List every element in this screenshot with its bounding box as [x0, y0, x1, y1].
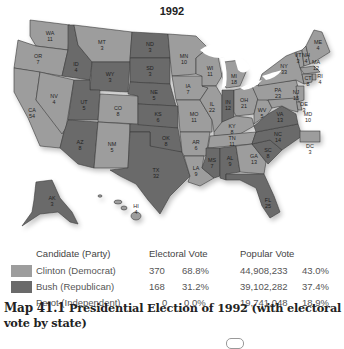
header-candidate: Candidate (Party) — [36, 248, 110, 259]
state-label-RI: RI4 — [317, 73, 322, 85]
candidate-name: Clinton (Democrat) — [36, 265, 116, 276]
state-label-WI: WI11 — [207, 65, 214, 77]
popular-vote: 39,102,282 — [240, 281, 288, 292]
legend-row-clinton: Clinton (Democrat) 370 68.8% 44,908,233 … — [0, 265, 344, 279]
state-label-IN: IN12 — [225, 99, 231, 111]
state-label-CT: CT8 — [304, 75, 312, 87]
electoral-vote: 168 — [149, 281, 165, 292]
state-label-MI: MI18 — [231, 73, 237, 85]
legend-row-bush: Bush (Republican) 168 31.2% 39,102,282 3… — [0, 281, 344, 295]
state-DC — [300, 131, 320, 142]
header-popular-vote: Popular Vote — [240, 248, 294, 259]
popular-vote-pct: 43.0% — [302, 265, 329, 276]
state-label-FL: FL25 — [265, 197, 271, 209]
popular-vote-pct: 37.4% — [302, 281, 329, 292]
swatch-democrat — [11, 265, 32, 277]
figure-caption: Map 41.1 Presidential Election of 1992 (… — [4, 301, 344, 331]
state-label-TX: TX32 — [153, 167, 160, 179]
state-label-OH: OH21 — [240, 97, 248, 109]
caption-number: Map 41.1 — [4, 301, 65, 315]
page-marker — [226, 338, 244, 349]
state-label-VA: VA13 — [277, 111, 284, 123]
swatch-republican — [11, 281, 32, 293]
state-label-PA: PA23 — [275, 87, 282, 99]
state-label-NC: NC14 — [274, 131, 282, 143]
state-label-NY: NY33 — [280, 63, 288, 75]
state-label-CA: CA54 — [28, 107, 36, 119]
state-label-NJ: NJ15 — [293, 89, 300, 101]
electoral-vote-pct: 68.8% — [182, 265, 209, 276]
state-RI — [312, 74, 316, 80]
popular-vote: 44,908,233 — [240, 265, 288, 276]
electoral-vote-pct: 31.2% — [182, 281, 209, 292]
state-label-DC: DC3 — [306, 143, 314, 155]
header-electoral-vote: Electoral Vote — [149, 248, 208, 259]
state-label-MA: MA12 — [312, 59, 320, 71]
state-FL — [226, 174, 280, 218]
state-label-MD: MD10 — [304, 111, 312, 123]
state-label-TN: TN11 — [228, 135, 235, 147]
us-election-map: WA11OR7CA54NV4ID4MT3WY3UT5CO8AZ8NM5ND3SD… — [0, 0, 344, 240]
state-label-IL: IL22 — [209, 101, 215, 113]
candidate-name: Bush (Republican) — [36, 281, 114, 292]
electoral-vote: 370 — [149, 265, 165, 276]
